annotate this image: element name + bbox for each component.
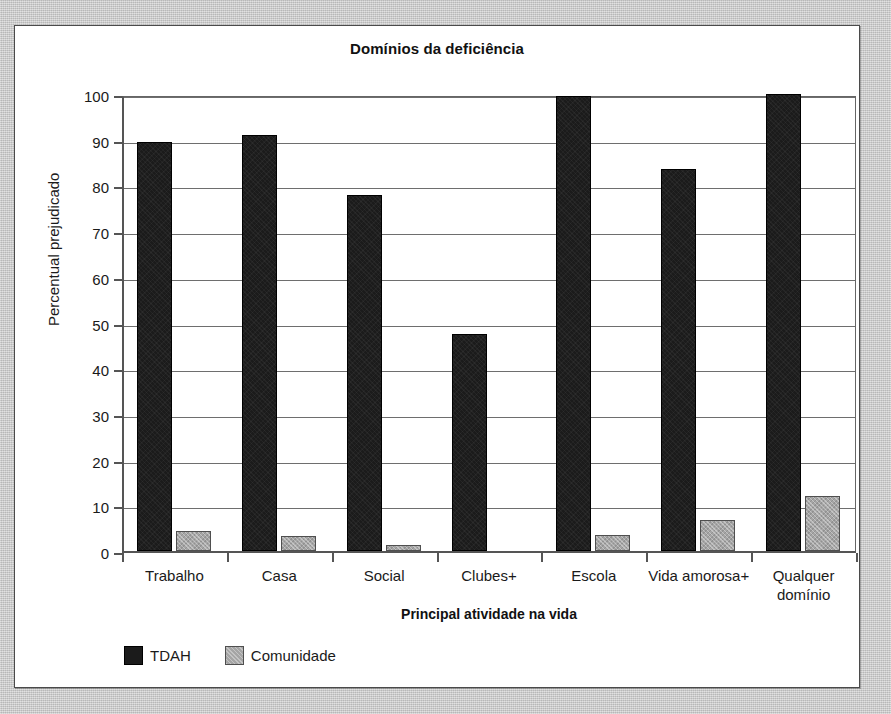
x-axis-category-label: Escola: [541, 566, 646, 585]
bar-tdah: [556, 96, 591, 551]
x-axis-tick: [856, 553, 858, 562]
x-axis-tick: [122, 553, 124, 562]
bar-tdah: [452, 334, 487, 551]
bar-group: [334, 97, 439, 551]
bar-comunidade: [700, 520, 735, 551]
y-axis-tick-label: 60: [92, 270, 109, 287]
bar-tdah: [137, 142, 172, 551]
bar-comunidade: [176, 531, 211, 551]
y-axis-tick: [114, 462, 122, 464]
legend-entry: Comunidade: [225, 646, 336, 665]
y-axis-tick: [114, 279, 122, 281]
legend-label: TDAH: [150, 647, 191, 664]
bar-group: [124, 97, 229, 551]
x-axis-category-label: Social: [332, 566, 437, 585]
y-axis-tick-label: 20: [92, 453, 109, 470]
bar-group: [648, 97, 753, 551]
legend-entry: TDAH: [124, 646, 191, 665]
x-axis-category-label: Qualquer domínio: [751, 566, 856, 604]
y-axis-tick: [114, 187, 122, 189]
x-axis-tick: [751, 553, 753, 562]
y-axis-tick: [114, 142, 122, 144]
x-axis-category-label: Vida amorosa+: [646, 566, 751, 585]
plot-wrapper: 0102030405060708090100 TrabalhoCasaSocia…: [122, 96, 856, 553]
y-axis-tick: [114, 416, 122, 418]
y-axis-tick-label: 100: [84, 88, 109, 105]
x-axis-title: Principal atividade na vida: [122, 606, 856, 622]
x-axis-tick: [541, 553, 543, 562]
x-axis-tick: [646, 553, 648, 562]
page-background: Domínios da deficiência Percentual preju…: [0, 0, 891, 714]
y-axis-tick: [114, 325, 122, 327]
y-axis-tick: [114, 507, 122, 509]
y-axis-tick-label: 70: [92, 225, 109, 242]
y-axis-tick: [114, 96, 122, 98]
y-axis-tick: [114, 370, 122, 372]
x-axis-category-label: Casa: [227, 566, 332, 585]
y-axis-tick: [114, 233, 122, 235]
y-axis-tick-label: 80: [92, 179, 109, 196]
bar-group: [753, 97, 858, 551]
y-axis-title: Percentual prejudicado: [45, 173, 62, 326]
bar-comunidade: [281, 536, 316, 551]
bar-group: [543, 97, 648, 551]
bar-group: [439, 97, 544, 551]
legend-label: Comunidade: [251, 647, 336, 664]
y-axis-tick-label: 10: [92, 499, 109, 516]
plot-area: [122, 96, 856, 553]
chart-card: Domínios da deficiência Percentual preju…: [14, 25, 860, 688]
legend-swatch-icon: [225, 646, 244, 665]
y-axis-tick: [114, 553, 122, 555]
chart-legend: TDAHComunidade: [124, 646, 336, 665]
bar-tdah: [766, 94, 801, 551]
bar-comunidade: [805, 496, 840, 551]
x-axis-category-label: Clubes+: [437, 566, 542, 585]
y-axis-tick-label: 50: [92, 316, 109, 333]
x-axis-category-label: Trabalho: [122, 566, 227, 585]
x-axis-tick: [332, 553, 334, 562]
chart-title: Domínios da deficiência: [15, 40, 859, 57]
y-axis-tick-label: 90: [92, 133, 109, 150]
x-axis-tick: [227, 553, 229, 562]
bar-tdah: [661, 169, 696, 551]
bar-tdah: [242, 135, 277, 551]
bar-group: [229, 97, 334, 551]
bar-comunidade: [595, 535, 630, 551]
y-axis-tick-label: 40: [92, 362, 109, 379]
x-axis-tick: [437, 553, 439, 562]
legend-swatch-icon: [124, 646, 143, 665]
y-axis-tick-label: 30: [92, 407, 109, 424]
bar-tdah: [347, 195, 382, 551]
bar-comunidade: [386, 545, 421, 551]
y-axis-tick-label: 0: [101, 545, 109, 562]
